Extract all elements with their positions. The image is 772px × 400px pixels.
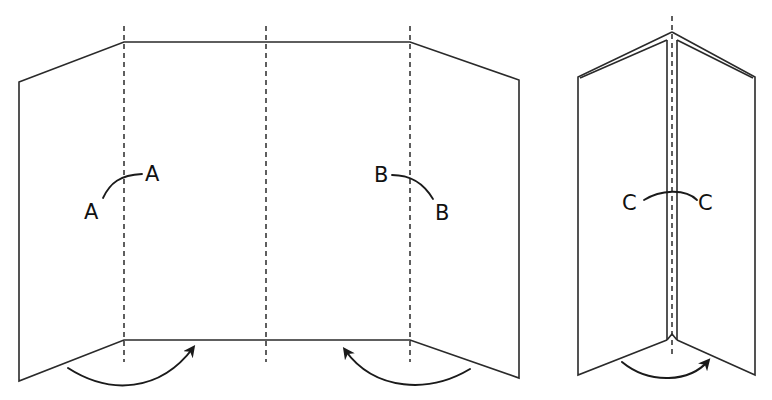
connector-curve-b [392,175,433,199]
figure-right-folded-screen: C C [578,16,755,378]
fold-arrow-close-icon [622,361,708,378]
label-c-left: C [622,191,637,215]
label-b-right: B [435,201,449,225]
connector-curve-a [103,174,142,198]
inner-edge-right [677,40,753,78]
figure-left-unfolded-screen: A A B B [19,26,519,385]
label-a-left: A [84,200,99,224]
label-c-right: C [698,191,713,215]
connector-curve-c [644,192,697,200]
label-a-right: A [145,162,160,186]
inner-edge-left [580,40,667,78]
right-wing-outline [672,32,755,375]
label-b-left: B [374,163,388,187]
folding-diagram: A A B B C C [0,0,772,400]
fold-arrow-left-icon [68,348,193,385]
